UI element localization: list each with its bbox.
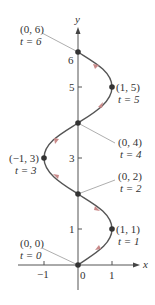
y-tick-label: 5 [69,81,75,93]
arrow-icon [98,102,103,108]
y-ticks: 1 3 5 6 [68,54,82,235]
point-t0 [75,262,81,268]
x-tick-label: −1 [37,268,49,280]
point-t6 [75,49,81,55]
y-tick-label: 3 [69,152,75,164]
point-label-t: t = 2 [120,182,142,194]
y-axis-arrow-icon [76,27,81,34]
point-label-t: t = 6 [20,35,42,47]
point-label-t: t = 3 [15,164,37,176]
point-labels: (0, 6) t = 6 (1, 5) t = 5 (0, 4) t = 4 (… [9,23,142,261]
y-tick-label: 1 [69,223,75,235]
arrow-icon [54,138,59,144]
parametric-curve-diagram: y x −1 0 1 1 3 5 6 [0,0,155,305]
point-label-t: t = 1 [118,235,139,247]
point-t3 [41,155,47,161]
point-label-t: t = 5 [118,93,140,105]
y-axis-label: y [74,13,80,25]
x-axis-label: x [142,258,148,270]
point-t2 [75,191,81,197]
x-axis-arrow-icon [133,263,140,268]
x-tick-label: 1 [109,269,115,281]
y-tick-label: 6 [68,54,74,66]
point-t1 [109,226,115,232]
x-tick-label: 0 [80,269,86,281]
point-t4 [75,120,81,126]
point-label-t: t = 0 [20,249,42,261]
point-t5 [109,84,115,90]
point-label-t: t = 4 [120,148,142,160]
